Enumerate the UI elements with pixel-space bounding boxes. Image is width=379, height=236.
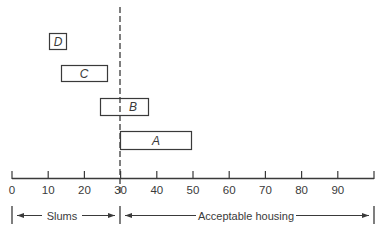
tick-label: 0 — [9, 184, 15, 196]
tick-label: 90 — [331, 184, 344, 196]
box-a: A — [121, 132, 192, 150]
box-d: D — [50, 34, 67, 50]
box-b: B — [101, 99, 149, 116]
tick-label: 10 — [42, 184, 55, 196]
tick-label: 40 — [150, 184, 163, 196]
x-axis: 0 10 20 30 40 50 60 70 80 90 — [9, 171, 374, 196]
box-b-label: B — [129, 100, 137, 114]
axis-ticks — [12, 171, 374, 179]
tick-label: 80 — [295, 184, 308, 196]
tick-label: 20 — [78, 184, 91, 196]
tick-label: 50 — [187, 184, 200, 196]
acceptable-housing-label: Acceptable housing — [198, 210, 294, 222]
diagram-canvas: D C B A — [0, 0, 379, 236]
range-brackets: Slums Acceptable housing — [12, 206, 374, 224]
tick-label: 60 — [223, 184, 236, 196]
box-c: C — [62, 66, 108, 82]
box-a-label: A — [151, 134, 160, 148]
slums-label: Slums — [47, 210, 78, 222]
box-c-label: C — [80, 67, 89, 81]
housing-diagram: D C B A — [0, 0, 379, 236]
box-d-label: D — [54, 35, 63, 49]
tick-label: 30 — [114, 184, 127, 196]
tick-label: 70 — [259, 184, 272, 196]
axis-tick-labels: 0 10 20 30 40 50 60 70 80 90 — [9, 184, 344, 196]
